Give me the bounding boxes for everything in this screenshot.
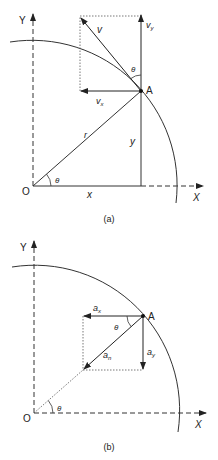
- x-axis-label: X: [192, 192, 200, 203]
- theta-arc-a: [127, 316, 131, 327]
- point-a-marker: [139, 89, 143, 93]
- an-label: an: [103, 350, 112, 361]
- caption-b: (b): [104, 442, 115, 452]
- theta-arc-origin: [47, 174, 52, 186]
- circular-path: [12, 265, 180, 432]
- kinematics-diagram: Y X O A r x y θ θ v vx vy (a) Y X O A θ: [0, 0, 218, 460]
- radius-line: [33, 91, 141, 186]
- x-axis-label: X: [194, 419, 202, 430]
- caption-a: (a): [104, 214, 115, 224]
- y-axis-label: Y: [19, 15, 26, 26]
- point-a-marker: [141, 314, 145, 318]
- y-label: y: [129, 136, 136, 147]
- ax-label: ax: [93, 303, 102, 314]
- x-label: x: [86, 189, 93, 200]
- circular-path: [10, 40, 177, 203]
- vy-label: vy: [146, 20, 155, 31]
- theta-origin-label: θ: [57, 404, 62, 413]
- theta-origin-label: θ: [55, 176, 60, 185]
- vx-label: vx: [96, 96, 105, 107]
- theta-a-label: θ: [114, 323, 119, 332]
- figure-b: Y X O A θ θ ax ay an (b): [12, 241, 206, 452]
- theta-arc-a: [131, 75, 141, 79]
- velocity-vector: [81, 18, 141, 91]
- point-a-label: A: [146, 85, 153, 96]
- y-axis-label: Y: [20, 242, 27, 253]
- theta-a-label: θ: [131, 65, 136, 74]
- point-a-label: A: [148, 311, 155, 322]
- velocity-label: v: [97, 24, 103, 35]
- figure-a: Y X O A r x y θ θ v vx vy (a): [10, 14, 203, 224]
- origin-label: O: [23, 413, 31, 424]
- theta-arc-origin: [48, 401, 53, 414]
- origin-label: O: [22, 186, 30, 197]
- ay-label: ay: [147, 347, 156, 358]
